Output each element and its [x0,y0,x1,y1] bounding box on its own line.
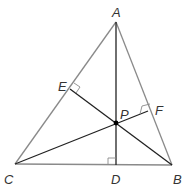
right-angle-mark-E [74,83,80,93]
label-F: F [155,103,164,118]
label-D: D [111,172,120,187]
label-E: E [58,79,67,94]
label-A: A [111,5,121,20]
point-P [114,121,119,126]
triangle-diagram: A B C D E F P [0,0,188,191]
label-B: B [173,172,182,187]
side-BC [15,164,172,165]
label-P: P [120,107,129,122]
label-C: C [4,172,14,187]
